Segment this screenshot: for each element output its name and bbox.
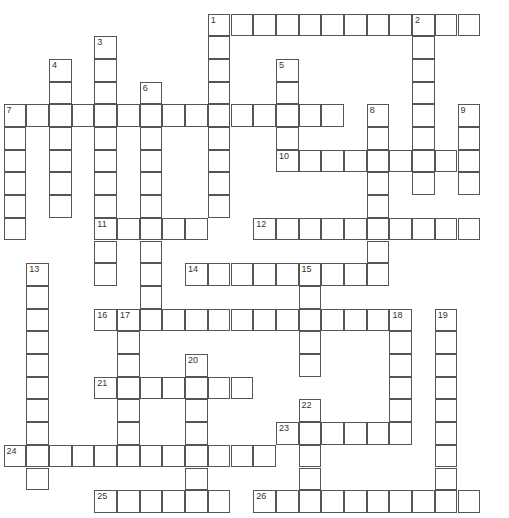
crossword-cell[interactable] (412, 172, 435, 195)
crossword-cell[interactable] (231, 263, 254, 286)
crossword-cell[interactable] (389, 490, 412, 513)
crossword-cell[interactable] (208, 82, 231, 105)
crossword-cell[interactable] (412, 82, 435, 105)
crossword-cell[interactable]: 9 (458, 104, 481, 127)
crossword-cell[interactable] (117, 399, 140, 422)
crossword-cell[interactable] (117, 331, 140, 354)
crossword-cell[interactable] (412, 490, 435, 513)
crossword-cell[interactable] (185, 218, 208, 241)
crossword-cell[interactable] (94, 82, 117, 105)
crossword-cell[interactable] (26, 354, 49, 377)
crossword-cell[interactable] (94, 195, 117, 218)
crossword-cell[interactable]: 20 (185, 354, 208, 377)
crossword-cell[interactable] (389, 422, 412, 445)
crossword-cell[interactable] (140, 218, 163, 241)
crossword-cell[interactable] (94, 59, 117, 82)
crossword-cell[interactable] (94, 127, 117, 150)
crossword-cell[interactable] (208, 195, 231, 218)
crossword-cell[interactable] (299, 14, 322, 37)
crossword-cell[interactable] (26, 286, 49, 309)
crossword-cell[interactable] (185, 468, 208, 491)
crossword-cell[interactable]: 5 (276, 59, 299, 82)
crossword-cell[interactable] (140, 241, 163, 264)
crossword-cell[interactable] (367, 127, 390, 150)
crossword-cell[interactable] (117, 490, 140, 513)
crossword-cell[interactable]: 16 (94, 309, 117, 332)
crossword-cell[interactable] (162, 218, 185, 241)
crossword-cell[interactable] (140, 490, 163, 513)
crossword-cell[interactable]: 13 (26, 263, 49, 286)
crossword-cell[interactable] (412, 127, 435, 150)
crossword-cell[interactable] (72, 445, 95, 468)
crossword-cell[interactable] (435, 422, 458, 445)
crossword-cell[interactable] (4, 218, 27, 241)
crossword-cell[interactable] (367, 490, 390, 513)
crossword-cell[interactable] (321, 104, 344, 127)
crossword-cell[interactable] (231, 309, 254, 332)
crossword-cell[interactable] (140, 195, 163, 218)
crossword-cell[interactable] (208, 36, 231, 59)
crossword-cell[interactable] (94, 241, 117, 264)
crossword-cell[interactable]: 8 (367, 104, 390, 127)
crossword-cell[interactable] (49, 445, 72, 468)
crossword-cell[interactable] (94, 150, 117, 173)
crossword-cell[interactable] (344, 263, 367, 286)
crossword-cell[interactable] (458, 490, 481, 513)
crossword-cell[interactable]: 10 (276, 150, 299, 173)
crossword-cell[interactable] (231, 14, 254, 37)
crossword-cell[interactable] (458, 127, 481, 150)
crossword-cell[interactable]: 4 (49, 59, 72, 82)
crossword-cell[interactable] (389, 331, 412, 354)
crossword-cell[interactable] (117, 377, 140, 400)
crossword-cell[interactable] (208, 309, 231, 332)
crossword-cell[interactable] (253, 263, 276, 286)
crossword-cell[interactable] (367, 309, 390, 332)
crossword-cell[interactable]: 12 (253, 218, 276, 241)
crossword-cell[interactable] (26, 468, 49, 491)
crossword-cell[interactable] (344, 218, 367, 241)
crossword-cell[interactable]: 22 (299, 399, 322, 422)
crossword-cell[interactable] (389, 377, 412, 400)
crossword-cell[interactable] (321, 490, 344, 513)
crossword-cell[interactable] (435, 399, 458, 422)
crossword-cell[interactable] (276, 14, 299, 37)
crossword-cell[interactable] (117, 445, 140, 468)
crossword-cell[interactable] (276, 263, 299, 286)
crossword-cell[interactable] (299, 468, 322, 491)
crossword-cell[interactable] (185, 309, 208, 332)
crossword-cell[interactable] (185, 422, 208, 445)
crossword-cell[interactable] (4, 195, 27, 218)
crossword-cell[interactable] (276, 490, 299, 513)
crossword-cell[interactable] (321, 309, 344, 332)
crossword-cell[interactable] (140, 309, 163, 332)
crossword-cell[interactable] (276, 82, 299, 105)
crossword-cell[interactable] (140, 445, 163, 468)
crossword-cell[interactable] (140, 377, 163, 400)
crossword-cell[interactable] (208, 172, 231, 195)
crossword-cell[interactable] (4, 172, 27, 195)
crossword-cell[interactable] (344, 14, 367, 37)
crossword-cell[interactable] (117, 422, 140, 445)
crossword-cell[interactable] (185, 445, 208, 468)
crossword-cell[interactable] (435, 354, 458, 377)
crossword-cell[interactable] (276, 218, 299, 241)
crossword-cell[interactable] (185, 490, 208, 513)
crossword-cell[interactable] (321, 150, 344, 173)
crossword-cell[interactable] (94, 104, 117, 127)
crossword-cell[interactable] (367, 195, 390, 218)
crossword-cell[interactable]: 19 (435, 309, 458, 332)
crossword-cell[interactable]: 18 (389, 309, 412, 332)
crossword-cell[interactable] (412, 104, 435, 127)
crossword-cell[interactable] (367, 241, 390, 264)
crossword-cell[interactable]: 17 (117, 309, 140, 332)
crossword-cell[interactable] (367, 172, 390, 195)
crossword-cell[interactable] (458, 218, 481, 241)
crossword-cell[interactable] (299, 104, 322, 127)
crossword-cell[interactable] (389, 399, 412, 422)
crossword-cell[interactable] (299, 309, 322, 332)
crossword-cell[interactable] (162, 490, 185, 513)
crossword-cell[interactable]: 15 (299, 263, 322, 286)
crossword-cell[interactable] (412, 218, 435, 241)
crossword-cell[interactable] (435, 218, 458, 241)
crossword-cell[interactable] (458, 150, 481, 173)
